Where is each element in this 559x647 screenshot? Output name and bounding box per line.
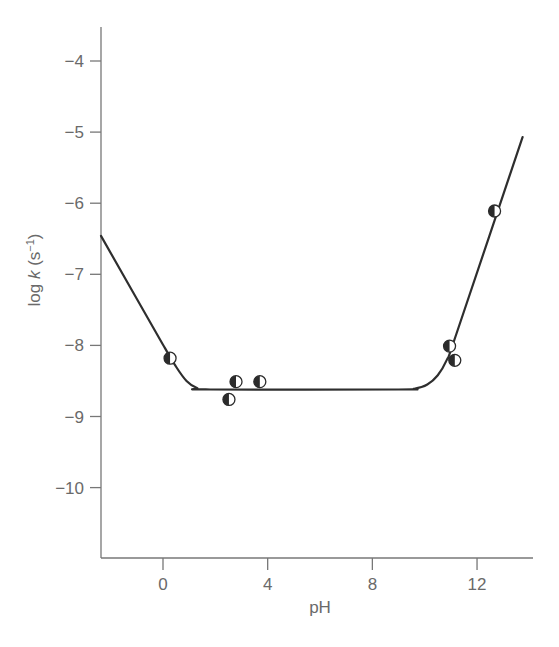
data-point-marker (223, 393, 235, 405)
data-point-marker (444, 340, 456, 352)
y-tick-label: −8 (65, 336, 84, 355)
y-tick-label: −7 (65, 265, 84, 284)
y-ticks: −4−5−6−7−8−9−10 (55, 52, 101, 498)
chart: −4−5−6−7−8−9−10 04812 pH log k (s−1) (0, 0, 559, 647)
data-point-marker (489, 205, 501, 217)
x-tick-label: 4 (263, 575, 272, 594)
axes: −4−5−6−7−8−9−10 04812 (55, 27, 533, 594)
y-tick-label: −5 (65, 123, 84, 142)
x-axis-label: pH (309, 598, 331, 617)
y-axis-label: log k (s−1) (24, 233, 44, 306)
y-tick-label: −9 (65, 408, 84, 427)
data-points (164, 205, 501, 405)
y-tick-label: −6 (65, 194, 84, 213)
y-tick-label: −10 (55, 479, 84, 498)
x-tick-label: 8 (368, 575, 377, 594)
data-point-marker (254, 376, 266, 388)
y-tick-label: −4 (65, 52, 84, 71)
data-point-marker (230, 376, 242, 388)
data-point-marker (164, 352, 176, 364)
plot-area (101, 137, 523, 405)
x-tick-label: 0 (158, 575, 167, 594)
fit-curve (101, 137, 523, 390)
x-tick-label: 12 (468, 575, 487, 594)
x-ticks: 04812 (158, 558, 486, 594)
data-point-marker (449, 354, 461, 366)
